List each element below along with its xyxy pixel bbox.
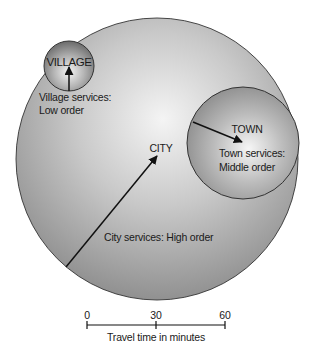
city-label: CITY	[149, 142, 172, 154]
scale-label-0: 0	[84, 309, 90, 321]
scale-label-60: 60	[219, 309, 231, 321]
town-services-line1: Town services:	[219, 147, 285, 159]
town-services-line2: Middle order	[219, 161, 276, 173]
central-place-diagram: VILLAGE Village services: Low order TOWN…	[0, 0, 312, 353]
village-services-line1: Village services:	[39, 91, 111, 103]
scale-caption: Travel time in minutes	[107, 331, 205, 343]
village-label: VILLAGE	[46, 56, 92, 68]
scale-label-30: 30	[150, 309, 162, 321]
town-market-area	[187, 87, 299, 199]
village-services-line2: Low order	[39, 104, 85, 116]
town-label: TOWN	[231, 123, 262, 135]
city-services-label: City services: High order	[104, 231, 214, 243]
scale-bar: 0 30 60 Travel time in minutes	[84, 309, 231, 343]
